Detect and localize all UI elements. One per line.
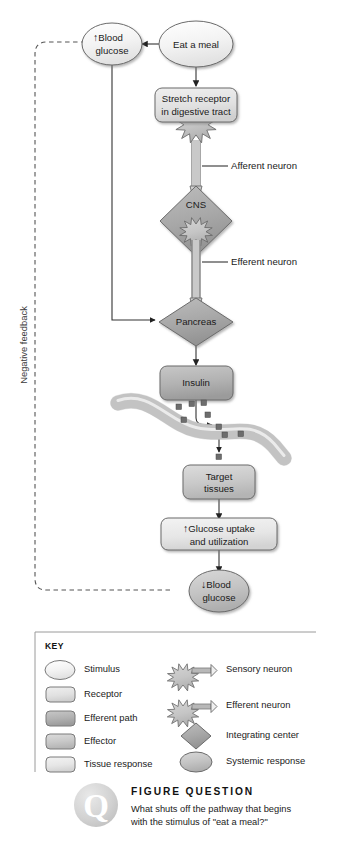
target-tissues-node: Target tissues [183,465,255,499]
key-item-effector-label: Effector [84,735,116,746]
blood-glucose-down-node: ↓Blood glucose [189,570,249,612]
pathway-diagram: Negative feedback Afferent neuron CNS Ef… [0,0,341,844]
key-item-receptor: Receptor [46,687,122,702]
key-item-integrating-center-label: Integrating center [226,729,299,740]
figure-question-line2: with the stimulus of "eat a meal?" [130,817,268,827]
key-item-systemic-response: Systemic response [180,752,305,772]
target-tissues-line2: tissues [204,483,234,494]
figure-question-heading: FIGURE QUESTION [131,786,254,797]
eat-a-meal-node: Eat a meal [159,21,233,67]
negative-feedback-path [35,36,170,590]
key-title: KEY [45,641,64,651]
stretch-receptor-line1: Stretch receptor [162,93,231,104]
key-item-stimulus-label: Stimulus [84,663,120,674]
afferent-neuron-label: Afferent neuron [231,160,297,171]
glucose-uptake-line1: Glucose uptake [188,523,255,534]
key-item-receptor-label: Receptor [84,688,122,699]
key-box: KEY Stimulus Receptor Efferent path Effe… [35,632,316,772]
efferent-neuron-callout: Efferent neuron [202,256,297,267]
eat-a-meal-label: Eat a meal [173,39,219,50]
afferent-neuron-callout: Afferent neuron [202,160,297,171]
glucose-uptake-node: ↑Glucose uptake and utilization [161,518,277,550]
svg-text:↓Blood: ↓Blood [201,578,231,590]
target-tissues-line1: Target [206,471,233,482]
blood-glucose-up-line2: glucose [95,45,128,56]
key-item-effector: Effector [46,734,116,749]
insulin-node: Insulin [160,366,233,400]
pancreas-node: Pancreas [159,298,233,346]
blood-glucose-up-line1: Blood [98,32,123,43]
efferent-neuron-label: Efferent neuron [231,256,297,267]
figure-question: Q FIGURE QUESTION What shuts off the pat… [74,783,291,827]
key-item-stimulus: Stimulus [45,661,120,680]
key-item-efferent-path: Efferent path [46,711,138,726]
blood-glucose-down-line1: Blood [206,579,231,590]
key-item-efferent-neuron-label: Efferent neuron [226,699,290,710]
figure-canvas: Negative feedback Afferent neuron CNS Ef… [0,0,341,844]
negative-feedback-label: Negative feedback [18,306,29,384]
figure-question-line1: What shuts off the pathway that begins [131,804,291,814]
key-item-tissue-response: Tissue response [46,757,152,772]
key-item-efferent-neuron: Efferent neuron [167,699,290,726]
key-item-tissue-response-label: Tissue response [84,758,152,769]
pancreas-label: Pancreas [176,316,217,327]
cns-label: CNS [186,199,206,210]
key-item-sensory-neuron-label: Sensory neuron [226,663,292,674]
key-item-efferent-path-label: Efferent path [84,712,138,723]
key-item-integrating-center: Integrating center [181,723,299,749]
stretch-receptor-node: Stretch receptor in digestive tract [155,88,237,122]
key-item-systemic-response-label: Systemic response [226,755,305,766]
stretch-receptor-line2: in digestive tract [161,106,231,117]
blood-glucose-up-node: ↑Blood glucose [82,23,142,65]
blood-glucose-down-line2: glucose [202,592,235,603]
svg-text:↑Glucose uptake: ↑Glucose uptake [183,522,255,534]
blood-vessel [118,398,284,458]
svg-text:↑Blood: ↑Blood [93,31,123,43]
insulin-label: Insulin [182,377,210,388]
glucose-uptake-line2: and utilization [190,536,249,547]
figure-question-badge: Q [83,788,109,824]
key-item-sensory-neuron: Sensory neuron [167,663,292,690]
